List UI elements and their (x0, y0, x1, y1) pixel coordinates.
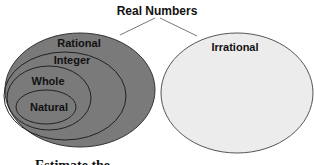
natural-label: Natural (30, 101, 68, 113)
whole-label: Whole (32, 75, 65, 87)
rational-label: Rational (57, 37, 100, 49)
irrational-label: Irrational (211, 41, 258, 53)
connector-line-right (160, 18, 197, 36)
title: Real Numbers (117, 4, 198, 18)
real-numbers-venn-diagram: Real Numbers Rational Integer Whole Natu… (0, 0, 314, 165)
rational-set (5, 33, 155, 147)
integer-label: Integer (54, 54, 91, 66)
caption-text: Estimate the (35, 158, 110, 165)
connector-line-left (120, 18, 155, 35)
